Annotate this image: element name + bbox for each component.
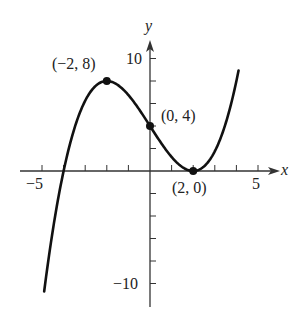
y-tick-label-neg10: −10	[113, 276, 138, 292]
point-label-min: (2, 0)	[172, 180, 207, 196]
function-curve	[44, 71, 238, 292]
y-axis-label: y	[145, 18, 152, 34]
x-tick-label-neg5: −5	[26, 176, 43, 192]
y-tick-label-10: 10	[126, 51, 142, 67]
data-point	[189, 167, 197, 175]
point-label-intercept: (0, 4)	[161, 108, 196, 124]
data-point	[146, 122, 154, 130]
function-graph	[0, 0, 297, 319]
x-axis-label: x	[281, 162, 288, 178]
point-label-max: (−2, 8)	[52, 56, 96, 72]
x-tick-label-5: 5	[252, 176, 260, 192]
data-point	[103, 77, 111, 85]
